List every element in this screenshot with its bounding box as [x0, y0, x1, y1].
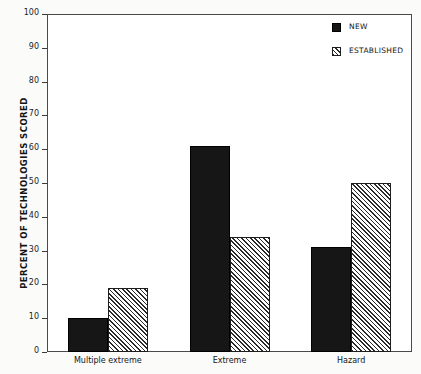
legend-label: ESTABLISHED — [349, 46, 403, 55]
bar-series-group — [47, 14, 412, 352]
bar-established-extreme — [230, 237, 270, 352]
y-tick-label: 80 — [29, 76, 39, 85]
y-tick-label: 20 — [29, 278, 39, 287]
x-axis-label: Hazard — [337, 356, 365, 365]
y-tick-label: 70 — [29, 109, 39, 118]
y-tick-mark — [42, 352, 47, 353]
bar-new-hazard — [311, 247, 351, 352]
y-tick-label: 30 — [29, 245, 39, 254]
bar-established-hazard — [351, 183, 391, 352]
bar-established-multiple-extreme — [108, 288, 148, 352]
y-tick-label: 40 — [29, 211, 39, 220]
bar-new-extreme — [190, 146, 230, 352]
y-tick-label: 0 — [34, 346, 39, 355]
y-tick-label: 100 — [24, 8, 39, 17]
y-tick-label: 60 — [29, 143, 39, 152]
y-tick-label: 10 — [29, 312, 39, 321]
y-axis-title: PERCENT OF TECHNOLOGIES SCORED — [19, 73, 29, 313]
legend-swatch-new — [332, 23, 341, 32]
x-axis-label: Multiple extreme — [74, 356, 142, 365]
legend-swatch-established — [332, 47, 341, 56]
legend-label: NEW — [349, 22, 368, 31]
bar-chart: PERCENT OF TECHNOLOGIES SCORED 010203040… — [0, 0, 421, 374]
y-tick-label: 90 — [29, 42, 39, 51]
bar-new-multiple-extreme — [68, 318, 108, 352]
x-axis-label: Extreme — [213, 356, 247, 365]
y-tick-label: 50 — [29, 177, 39, 186]
